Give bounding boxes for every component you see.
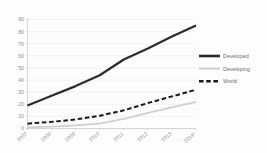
x-tick-label: 2010 — [88, 131, 101, 143]
y-axis-group — [26, 19, 28, 129]
x-tick-label: 2009 — [64, 131, 77, 143]
y-tick-label: 40 — [18, 77, 24, 83]
line-chart-svg: 0102030405060708090 20072008200920102011… — [0, 0, 267, 153]
series-line-developing — [28, 102, 197, 127]
y-tick-label: 50 — [18, 65, 24, 71]
y-tick-labels-group: 0102030405060708090 — [18, 16, 24, 131]
x-tick-label: 2012 — [136, 131, 149, 143]
chart-container: 0102030405060708090 20072008200920102011… — [0, 0, 267, 153]
data-series-group — [28, 26, 197, 128]
x-tick-label: 2011 — [112, 131, 124, 143]
x-tick-label: 2013 — [160, 131, 173, 143]
y-tick-label: 10 — [18, 113, 24, 119]
y-tick-label: 60 — [18, 53, 24, 59]
y-tick-label: 20 — [18, 101, 24, 107]
legend-label-developed: Developed — [223, 53, 249, 59]
x-tick-label: 2007 — [15, 131, 28, 143]
y-tick-label: 30 — [18, 89, 24, 95]
y-tick-label: 70 — [18, 41, 24, 47]
legend-label-developing: Developing — [223, 66, 250, 72]
x-axis-group — [28, 129, 197, 131]
x-tick-label: 2014* — [182, 131, 196, 144]
series-line-developed — [28, 26, 197, 106]
x-tick-label: 2008 — [40, 131, 53, 143]
y-tick-label: 80 — [18, 29, 24, 35]
chart-legend: DevelopedDevelopingWorld — [199, 53, 250, 84]
legend-label-world: World — [223, 78, 237, 84]
y-tick-label: 90 — [18, 16, 24, 22]
x-tick-labels-group: 20072008200920102011201220132014* — [15, 131, 196, 144]
